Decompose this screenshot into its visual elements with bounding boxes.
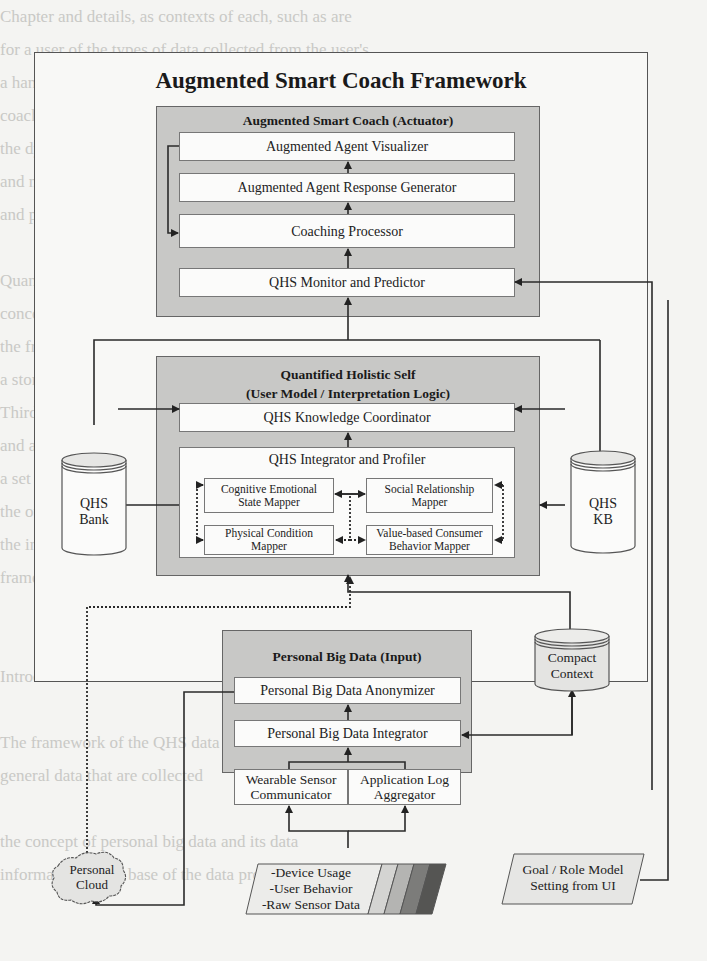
cloud-line: Personal bbox=[56, 862, 128, 877]
raw-data-item: -Device Usage bbox=[246, 865, 376, 881]
connector-lines bbox=[0, 0, 707, 961]
qhs-bank-label: QHS Bank bbox=[62, 496, 126, 528]
store-line: Context bbox=[535, 666, 609, 682]
store-line: QHS bbox=[62, 496, 126, 512]
raw-data-label: -Device Usage -User Behavior -Raw Sensor… bbox=[246, 865, 376, 913]
goal-ui-label: Goal / Role Model Setting from UI bbox=[506, 862, 640, 894]
cloud-line: Cloud bbox=[56, 877, 128, 892]
compact-context-label: Compact Context bbox=[535, 650, 609, 682]
goal-line: Setting from UI bbox=[506, 878, 640, 894]
personal-cloud-label: Personal Cloud bbox=[56, 862, 128, 892]
raw-data-item: -User Behavior bbox=[246, 881, 376, 897]
store-line: KB bbox=[571, 512, 635, 528]
goal-line: Goal / Role Model bbox=[506, 862, 640, 878]
store-line: QHS bbox=[571, 496, 635, 512]
raw-data-item: -Raw Sensor Data bbox=[246, 897, 376, 913]
qhs-kb-label: QHS KB bbox=[571, 496, 635, 528]
store-line: Bank bbox=[62, 512, 126, 528]
store-line: Compact bbox=[535, 650, 609, 666]
